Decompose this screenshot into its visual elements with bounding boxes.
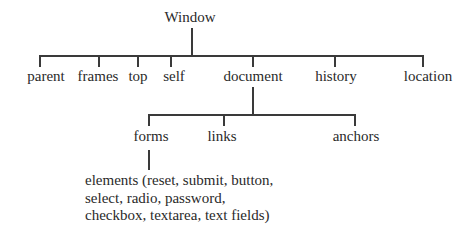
node-forms: forms (134, 128, 169, 145)
connector-history (334, 55, 336, 67)
connector-forms-down (148, 150, 150, 170)
connector-level1-bar (39, 55, 424, 57)
connector-frames (98, 55, 100, 67)
node-window: Window (164, 9, 215, 26)
node-self: self (163, 68, 185, 85)
connector-self (170, 55, 172, 67)
connector-parent (39, 55, 41, 67)
node-location: location (404, 68, 452, 85)
elements-line-3: checkbox, textarea, text fields) (85, 207, 273, 225)
connector-document (252, 55, 254, 67)
node-frames: frames (78, 68, 119, 85)
node-links: links (207, 128, 236, 145)
connector-forms (148, 114, 150, 126)
connector-window-down (191, 28, 193, 56)
node-parent: parent (27, 68, 64, 85)
node-document: document (223, 68, 282, 85)
elements-line-1: elements (reset, submit, button, (85, 172, 273, 190)
node-top: top (128, 68, 147, 85)
connector-links (223, 114, 225, 126)
node-elements: elements (reset, submit, button, select,… (85, 172, 273, 225)
node-history: history (315, 68, 357, 85)
node-anchors: anchors (333, 128, 380, 145)
elements-line-2: select, radio, password, (85, 190, 273, 208)
connector-location (422, 55, 424, 67)
connector-document-down (252, 87, 254, 115)
connector-anchors (354, 114, 356, 126)
connector-level2-bar (148, 114, 355, 116)
connector-top (137, 55, 139, 67)
